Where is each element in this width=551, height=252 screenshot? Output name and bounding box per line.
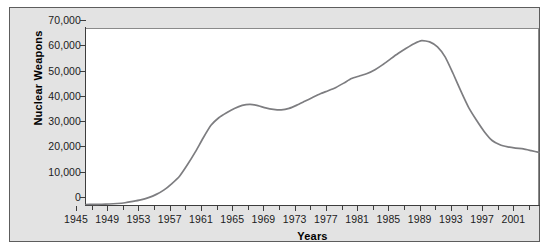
x-axis-tick-label: 1945 <box>64 213 88 225</box>
x-axis-tick-label: 1993 <box>439 213 463 225</box>
y-axis-line <box>85 27 86 206</box>
y-axis-tick-label: 60,000 <box>48 39 81 51</box>
x-axis-tick-mark <box>263 206 264 211</box>
x-axis-tick-mark <box>482 206 483 211</box>
x-axis-tick-mark <box>357 206 358 211</box>
y-axis-tick-mark <box>80 96 86 97</box>
x-axis-tick-mark <box>76 206 77 211</box>
y-axis-tick-mark <box>80 121 86 122</box>
x-axis-tick-mark <box>310 206 311 210</box>
y-axis-tick-mark <box>80 197 86 198</box>
x-axis-tick-mark <box>467 206 468 210</box>
x-axis-tick-mark <box>107 206 108 211</box>
y-axis-tick-mark <box>80 20 86 21</box>
y-axis-tick-mark <box>80 45 86 46</box>
x-axis-tick-label: 1969 <box>252 213 276 225</box>
x-axis-tick-mark <box>498 206 499 210</box>
x-axis-tick-mark <box>373 206 374 210</box>
x-axis-tick-mark <box>170 206 171 211</box>
x-axis-tick-mark <box>201 206 202 211</box>
x-axis-tick-mark <box>342 206 343 210</box>
x-axis-tick-label: 1981 <box>345 213 369 225</box>
x-axis-tick-label: 1953 <box>127 213 151 225</box>
x-axis-tick-label: 1973 <box>283 213 307 225</box>
y-axis-tick-mark <box>80 146 86 147</box>
x-axis-tick-mark <box>248 206 249 210</box>
y-axis-tick-label: 50,000 <box>48 65 81 77</box>
x-axis-tick-label: 1957 <box>158 213 182 225</box>
y-axis-tick-mark <box>80 71 86 72</box>
x-axis-tick-label: 1965 <box>220 213 244 225</box>
x-axis-tick-label: 1949 <box>95 213 119 225</box>
x-axis-tick-mark <box>217 206 218 210</box>
x-axis-tick-label: 1989 <box>408 213 432 225</box>
x-axis-title: Years <box>85 230 540 242</box>
x-axis-tick-label: 1997 <box>470 213 494 225</box>
x-axis-tick-mark <box>232 206 233 211</box>
x-axis-tick-mark <box>92 206 93 210</box>
chart-panel: 010,00020,00030,00040,00050,00060,00070,… <box>9 7 540 242</box>
x-axis-tick-mark <box>326 206 327 211</box>
x-axis-tick-mark <box>295 206 296 211</box>
x-axis-tick-label: 1985 <box>377 213 401 225</box>
x-axis-tick-mark <box>185 206 186 210</box>
x-axis-tick-mark <box>451 206 452 211</box>
y-axis-tick-label: 70,000 <box>48 14 81 26</box>
y-axis-tick-label: 10,000 <box>48 166 81 178</box>
y-axis-tick-label: 20,000 <box>48 140 81 152</box>
x-axis-tick-mark <box>420 206 421 211</box>
x-axis-tick-mark <box>138 206 139 211</box>
chart-figure: 010,00020,00030,00040,00050,00060,00070,… <box>0 0 551 252</box>
x-axis-tick-label: 1961 <box>189 213 213 225</box>
x-axis-tick-mark <box>435 206 436 210</box>
x-axis-tick-mark <box>404 206 405 210</box>
x-axis-tick-mark <box>279 206 280 210</box>
x-axis-tick-mark <box>529 206 530 210</box>
y-axis-title: Nuclear Weapons <box>32 0 44 168</box>
x-axis-tick-mark <box>513 206 514 211</box>
y-axis-tick-label: 30,000 <box>48 115 81 127</box>
y-axis-tick-label: 40,000 <box>48 90 81 102</box>
x-axis-tick-mark <box>123 206 124 210</box>
x-axis-tick-mark <box>388 206 389 211</box>
plot-area <box>86 28 539 205</box>
x-axis-tick-label: 1977 <box>314 213 338 225</box>
x-axis-tick-mark <box>154 206 155 210</box>
y-axis-tick-mark <box>80 172 86 173</box>
x-axis-tick-label: 2001 <box>501 213 525 225</box>
